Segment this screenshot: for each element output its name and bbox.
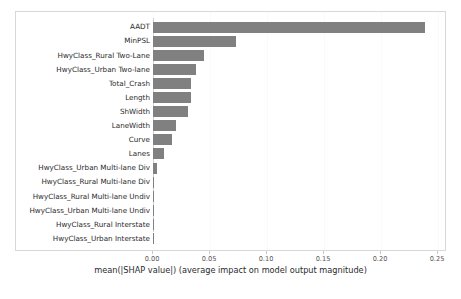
bar bbox=[153, 191, 154, 202]
x-tick-label: 0.10 bbox=[259, 255, 274, 263]
y-tick-label: AADT bbox=[16, 23, 152, 30]
y-tick-label: Length bbox=[16, 94, 152, 101]
x-tick-mark bbox=[266, 251, 267, 254]
y-tick-label: Curve bbox=[16, 136, 152, 143]
bars-container: AADTMinPSLHwyClass_Rural Two-LaneHwyClas… bbox=[16, 12, 445, 250]
x-axis: mean(|SHAP value|) (average impact on mo… bbox=[15, 251, 446, 299]
bar bbox=[153, 92, 191, 103]
bar bbox=[153, 177, 154, 188]
x-tick-label: 0.05 bbox=[202, 255, 217, 263]
bar bbox=[153, 50, 204, 61]
x-tick-mark bbox=[209, 251, 210, 254]
x-tick-mark bbox=[323, 251, 324, 254]
x-tick-mark bbox=[437, 251, 438, 254]
bar-row: HwyClass_Urban Interstate bbox=[16, 230, 445, 248]
x-tick-label: 0.15 bbox=[316, 255, 331, 263]
y-tick-label: LaneWidth bbox=[16, 122, 152, 129]
bar bbox=[153, 78, 191, 89]
bar bbox=[153, 36, 236, 47]
y-tick-label: Lanes bbox=[16, 150, 152, 157]
y-tick-label: HwyClass_Rural Interstate bbox=[16, 221, 152, 228]
bar bbox=[153, 64, 196, 75]
y-tick-label: HwyClass_Urban Multi-lane Div bbox=[16, 164, 152, 171]
y-tick-label: HwyClass_Rural Multi-lane Undiv bbox=[16, 193, 152, 200]
bar bbox=[153, 205, 154, 216]
shap-summary-figure: AADTMinPSLHwyClass_Rural Two-LaneHwyClas… bbox=[0, 0, 461, 299]
bar bbox=[153, 219, 154, 230]
x-tick-mark bbox=[152, 251, 153, 254]
bar bbox=[153, 134, 172, 145]
x-tick-mark bbox=[380, 251, 381, 254]
y-tick-label: HwyClass_Rural Multi-lane Div bbox=[16, 178, 152, 185]
bar bbox=[153, 106, 188, 117]
y-tick-label: MinPSL bbox=[16, 37, 152, 44]
x-axis-label: mean(|SHAP value|) (average impact on mo… bbox=[15, 265, 446, 275]
bar bbox=[153, 233, 154, 244]
plot-axes: AADTMinPSLHwyClass_Rural Two-LaneHwyClas… bbox=[15, 11, 446, 251]
y-tick-label: Total_Crash bbox=[16, 80, 152, 87]
bar bbox=[153, 148, 164, 159]
y-tick-label: ShWidth bbox=[16, 108, 152, 115]
x-tick-label: 0.00 bbox=[145, 255, 160, 263]
y-tick-label: HwyClass_Rural Two-Lane bbox=[16, 52, 152, 59]
bar bbox=[153, 22, 425, 33]
x-tick-label: 0.20 bbox=[373, 255, 388, 263]
y-tick-label: HwyClass_Urban Interstate bbox=[16, 235, 152, 242]
y-tick-label: HwyClass_Urban Two-lane bbox=[16, 66, 152, 73]
y-tick-label: HwyClass_Urban Multi-lane Undiv bbox=[16, 207, 152, 214]
x-tick-label: 0.25 bbox=[430, 255, 445, 263]
bar bbox=[153, 120, 176, 131]
bar bbox=[153, 163, 157, 174]
